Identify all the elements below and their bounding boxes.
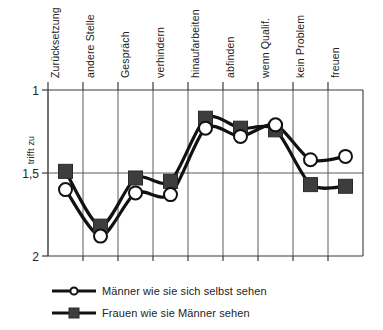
data-point-marker-square — [59, 164, 73, 178]
x-axis-category-label: verhindern — [154, 27, 166, 78]
data-point-marker-square — [164, 174, 178, 188]
x-axis-category-label: abfinden — [224, 37, 236, 79]
data-point-marker-circle — [94, 230, 107, 243]
legend-item-label: Männer wie sie sich selbst sehen — [102, 285, 267, 297]
x-axis-category-label: Zurücksetzung — [49, 7, 61, 78]
y-axis-tick-label: 2 — [32, 250, 39, 264]
y-axis-tick-label: 1 — [32, 84, 39, 98]
chart-legend: Männer wie sie sich selbst sehenFrauen w… — [52, 285, 267, 319]
axis-ticks — [42, 90, 328, 261]
chart-container: Zurücksetzungandere StelleGesprächverhin… — [0, 0, 383, 330]
data-point-marker-circle — [269, 118, 282, 131]
data-series — [59, 111, 353, 242]
x-axis-category-label: kein Problem — [294, 15, 306, 78]
data-point-marker-circle — [339, 150, 352, 163]
y-axis-title: trifft zu — [26, 136, 36, 165]
data-point-marker-square — [304, 178, 318, 192]
x-axis-category-label: wenn Qualif. — [259, 18, 271, 79]
data-point-marker-circle — [164, 188, 177, 201]
data-point-marker-square — [339, 179, 353, 193]
legend-marker-square — [69, 308, 79, 318]
x-axis-category-label: Gespräch — [119, 31, 131, 78]
data-point-marker-circle — [59, 183, 72, 196]
x-axis-category-label: andere Stelle — [84, 14, 96, 78]
x-axis-category-labels: Zurücksetzungandere StelleGesprächverhin… — [48, 7, 341, 90]
y-axis-tick-label: 1,5 — [22, 167, 39, 181]
y-axis-tick-labels: 11,52 — [22, 84, 39, 264]
legend-marker-circle — [70, 287, 77, 294]
legend-item-label: Frauen wie sie Männer sehen — [102, 307, 250, 319]
data-point-marker-circle — [304, 153, 317, 166]
x-axis-category-label: freuen — [329, 47, 341, 78]
data-point-marker-square — [129, 171, 143, 185]
x-axis-category-label: hinaufarbeiten — [189, 9, 201, 78]
line-chart: Zurücksetzungandere StelleGesprächverhin… — [0, 0, 383, 330]
data-point-marker-circle — [234, 130, 247, 143]
data-point-marker-circle — [129, 186, 142, 199]
data-point-marker-circle — [199, 122, 212, 135]
